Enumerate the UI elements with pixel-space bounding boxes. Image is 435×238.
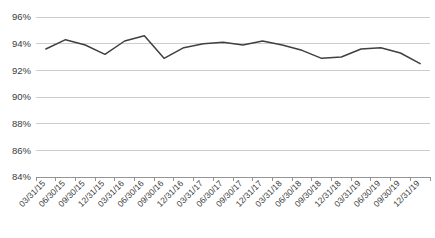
y-axis-labels: 96%94%92%90%88%86%84% [12,11,32,182]
data-series-line [46,36,420,64]
y-axis-tick-label: 84% [12,171,32,182]
y-axis-tick-label: 92% [12,65,32,76]
gridlines [36,17,430,150]
chart-canvas: 96%94%92%90%88%86%84% 03/31/1506/30/1509… [0,0,435,238]
y-axis-tick-label: 90% [12,91,32,102]
x-axis-tickmarks [36,177,430,181]
y-axis-tick-label: 86% [12,145,32,156]
line-chart: 96%94%92%90%88%86%84% 03/31/1506/30/1509… [0,0,435,238]
x-axis-labels: 03/31/1506/30/1509/30/1512/31/1503/31/16… [17,178,422,209]
y-axis-tick-label: 96% [12,11,32,22]
y-axis-tick-label: 88% [12,118,32,129]
y-axis-tick-label: 94% [12,38,32,49]
